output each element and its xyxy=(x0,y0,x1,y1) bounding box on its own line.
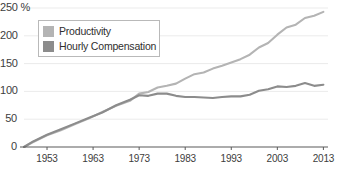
legend-item-hourly-compensation: Hourly Compensation xyxy=(43,39,155,54)
y-tick-label-200: 200 xyxy=(0,30,17,41)
legend-item-productivity: Productivity xyxy=(43,24,155,39)
y-tick-label-100: 100 xyxy=(0,85,17,96)
x-tick-label-1983: 1983 xyxy=(165,154,205,164)
x-tick-label-1993: 1993 xyxy=(211,154,251,164)
legend-label-hourly-compensation: Hourly Compensation xyxy=(59,41,156,52)
series-line-hourly-compensation xyxy=(24,83,323,147)
legend-label-productivity: Productivity xyxy=(59,26,111,37)
y-tick-label-50: 50 xyxy=(0,113,17,124)
legend-swatch-hourly-compensation xyxy=(43,41,54,52)
x-tick-label-1963: 1963 xyxy=(73,154,113,164)
y-tick-label-0: 0 xyxy=(0,141,17,152)
chart-legend: Productivity Hourly Compensation xyxy=(38,20,160,57)
x-tick-label-2003: 2003 xyxy=(257,154,297,164)
x-tick-label-2013: 2013 xyxy=(303,154,339,164)
legend-swatch-productivity xyxy=(43,26,54,37)
y-tick-label-150: 150 xyxy=(0,58,17,69)
x-tick-label-1973: 1973 xyxy=(119,154,159,164)
y-tick-label-250: 250 % xyxy=(0,2,17,13)
x-tick-label-1953: 1953 xyxy=(27,154,67,164)
